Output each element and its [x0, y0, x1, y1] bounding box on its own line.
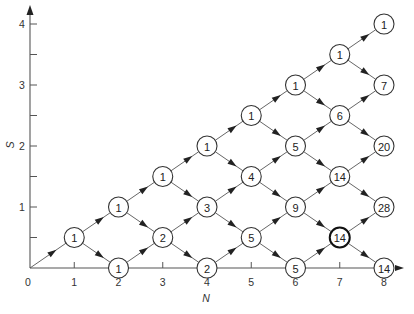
arrow-icon — [95, 250, 106, 260]
y-axis-label: S — [4, 141, 16, 148]
lattice-node: 1 — [109, 197, 129, 217]
arrow-icon — [183, 250, 194, 260]
edge — [304, 243, 332, 262]
edge — [171, 213, 199, 232]
lattice-node: 7 — [374, 75, 394, 95]
edge — [215, 152, 243, 171]
edge — [304, 152, 332, 171]
node-value: 28 — [378, 202, 390, 214]
edge — [259, 243, 287, 262]
node-value: 1 — [71, 232, 77, 244]
edge — [348, 182, 376, 201]
node-value: 1 — [337, 49, 343, 61]
node-value: 4 — [248, 171, 254, 183]
edge — [171, 243, 199, 262]
edge — [348, 152, 376, 171]
edge — [304, 60, 332, 79]
arrow-icon — [272, 128, 283, 138]
x-axis-label: N — [202, 292, 210, 304]
arrow-icon — [360, 154, 371, 164]
arrow-icon — [183, 215, 194, 225]
arrow-icon — [316, 184, 327, 194]
edge — [82, 243, 110, 262]
lattice-diagram: 012345678 1234 N S 111212315415951141461… — [0, 0, 414, 314]
y-ticks: 1234 — [19, 18, 37, 238]
lattice-node: 1 — [286, 75, 306, 95]
edge — [215, 243, 243, 262]
edge — [259, 182, 287, 201]
lattice-node: 14 — [374, 258, 394, 278]
node-value: 7 — [381, 80, 387, 92]
y-axis-arrow-icon — [27, 5, 34, 15]
x-tick-label: 1 — [71, 276, 77, 288]
arrow-icon — [95, 215, 106, 225]
node-value: 1 — [115, 263, 121, 275]
lattice-node: 5 — [286, 258, 306, 278]
arrow-icon — [316, 220, 327, 230]
x-tick-label: 5 — [248, 276, 254, 288]
edge — [348, 91, 376, 110]
arrow-icon — [360, 189, 371, 199]
edge — [171, 182, 199, 201]
lattice-node: 1 — [374, 14, 394, 34]
arrow-icon — [272, 215, 283, 225]
edge — [348, 60, 376, 79]
node-value: 14 — [378, 263, 390, 275]
arrow-icon — [139, 184, 150, 194]
edge — [304, 182, 332, 201]
arrow-icon — [139, 245, 150, 255]
y-tick-label: 2 — [19, 140, 25, 152]
lattice-node: 1 — [153, 167, 173, 187]
lattice-node: 5 — [241, 228, 261, 248]
arrow-icon — [360, 250, 371, 260]
node-value: 1 — [248, 110, 254, 122]
arrow-icon — [360, 215, 371, 225]
lattice-node: 5 — [286, 136, 306, 156]
lattice-node: 3 — [197, 197, 217, 217]
node-value: 5 — [292, 141, 298, 153]
node-value: 5 — [248, 232, 254, 244]
node-value: 20 — [378, 141, 390, 153]
lattice-node: 1 — [241, 106, 261, 126]
arrow-icon — [227, 184, 238, 194]
node-value: 1 — [204, 141, 210, 153]
arrow-icon — [139, 220, 150, 230]
lattice-node: 9 — [286, 197, 306, 217]
lattice-node: 2 — [153, 228, 173, 248]
edge — [127, 243, 155, 262]
arrow-icon — [183, 154, 194, 164]
edge — [304, 121, 332, 140]
node-value: 1 — [115, 202, 121, 214]
edge — [348, 121, 376, 140]
edge — [259, 121, 287, 140]
arrow-icon — [316, 159, 327, 169]
lattice-node: 2 — [197, 258, 217, 278]
lattice-node: 6 — [330, 106, 350, 126]
x-tick-label: 7 — [337, 276, 343, 288]
arrow-icon — [272, 154, 283, 164]
lattice-node: 28 — [374, 197, 394, 217]
arrow-icon — [47, 247, 58, 257]
node-value: 1 — [160, 171, 166, 183]
arrow-icon — [316, 98, 327, 108]
arrow-icon — [227, 159, 238, 169]
edge — [215, 182, 243, 201]
x-tick-label: 0 — [25, 276, 31, 288]
nodes: 11121231541595114146114282071 — [64, 14, 394, 278]
edge — [348, 30, 376, 49]
arrow-icon — [272, 189, 283, 199]
arrow-icon — [316, 245, 327, 255]
y-tick-label: 4 — [19, 18, 25, 30]
edge — [304, 91, 332, 110]
edge — [215, 121, 243, 140]
arrow-icon — [272, 250, 283, 260]
arrow-icon — [227, 220, 238, 230]
arrow-icon — [227, 123, 238, 133]
lattice-node: 20 — [374, 136, 394, 156]
lattice-node: 1 — [109, 258, 129, 278]
y-tick-label: 1 — [19, 201, 25, 213]
exit-arrow-icon — [395, 265, 404, 271]
lattice-node: 14 — [330, 167, 350, 187]
edge — [259, 213, 287, 232]
node-value: 14 — [334, 232, 346, 244]
